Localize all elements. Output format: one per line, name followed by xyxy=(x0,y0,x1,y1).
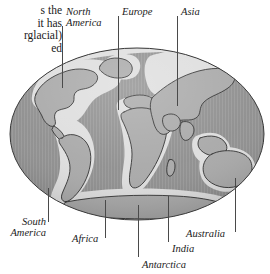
landmass-new-zealand xyxy=(236,189,246,199)
leader-line-africa xyxy=(105,200,106,238)
leader-line-india xyxy=(168,196,169,242)
leader-line-south-america xyxy=(48,188,49,222)
label-africa: Africa xyxy=(72,233,98,244)
label-asia: Asia xyxy=(181,6,200,17)
label-north-america: North America xyxy=(66,6,102,28)
label-india: India xyxy=(172,243,194,254)
label-australia: Australia xyxy=(186,228,225,239)
leader-line-australia xyxy=(235,178,236,232)
label-europe: Europe xyxy=(122,6,153,17)
label-south-america-line-1: South xyxy=(2,216,46,227)
leader-line-europe xyxy=(118,16,119,110)
label-north-america-line-1: North xyxy=(66,6,102,17)
label-south-america: South America xyxy=(2,216,46,238)
leader-line-antarctica xyxy=(138,205,139,257)
label-south-america-line-2: America xyxy=(2,227,46,238)
leader-line-asia xyxy=(177,16,178,106)
label-north-america-line-2: America xyxy=(66,17,102,28)
label-antarctica: Antarctica xyxy=(142,259,186,270)
world-map-figure: s the it has rglacial) ed xyxy=(0,0,270,274)
leader-line-north-america xyxy=(62,26,63,88)
